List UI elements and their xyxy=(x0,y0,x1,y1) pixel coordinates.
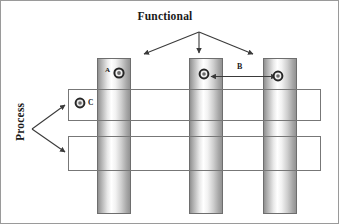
functional-arrow-left xyxy=(144,32,199,54)
marker-c-label: C xyxy=(88,99,93,107)
functional-arrow-right xyxy=(199,32,253,54)
process-arrows-group xyxy=(32,105,65,152)
diagram-vector-layer xyxy=(1,1,339,224)
marker-c[interactable] xyxy=(76,99,85,108)
process-axis-label: Process xyxy=(15,103,27,141)
marker-a[interactable] xyxy=(114,68,123,77)
diagram-canvas: Functional Process A B C xyxy=(0,0,339,224)
process-arrow-upper xyxy=(32,105,65,129)
functional-title: Functional xyxy=(137,11,192,23)
functional-arrows-group xyxy=(144,32,253,54)
marker-a-label: A xyxy=(105,67,110,74)
marker-b-right[interactable] xyxy=(274,72,283,81)
marker-b-middle[interactable] xyxy=(200,70,209,79)
process-arrow-lower xyxy=(32,129,65,152)
measure-b-label: B xyxy=(237,63,242,71)
